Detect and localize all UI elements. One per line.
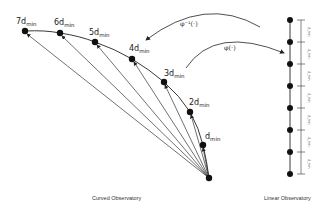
- linear-observatory-caption: Linear Observatory: [264, 195, 311, 201]
- label-3dmin: 3dmin: [164, 69, 185, 79]
- segment-label: d_min: [307, 137, 311, 147]
- segment-label: d_min: [307, 49, 311, 59]
- node-labels: 7dmin 6dmin 5dmin 4dmin 3dmin 2dmin dmin: [16, 17, 221, 142]
- node-2dmin: [187, 109, 193, 115]
- label-5dmin: 5dmin: [89, 28, 110, 38]
- forward-mapping-label: φ(·): [224, 44, 236, 52]
- segment-label: d_min: [307, 115, 311, 125]
- rays: [27, 34, 209, 178]
- linear-node: [287, 127, 293, 133]
- node-origin: [206, 175, 212, 181]
- diagram-canvas: 7dmin 6dmin 5dmin 4dmin 3dmin 2dmin dmin…: [0, 0, 332, 211]
- label-7dmin: 7dmin: [16, 17, 37, 27]
- label-4dmin: 4dmin: [129, 44, 150, 54]
- dimension-labels: d_min d_min d_min d_min d_min d_min d_mi…: [307, 27, 311, 169]
- segment-label: d_min: [307, 93, 311, 103]
- inverse-mapping-arrow: [146, 14, 260, 40]
- node-dmin: [200, 142, 206, 148]
- linear-node: [287, 17, 293, 23]
- label-2dmin: 2dmin: [189, 98, 210, 108]
- label-6dmin: 6dmin: [54, 18, 75, 28]
- linear-node: [287, 149, 293, 155]
- linear-node: [287, 39, 293, 45]
- segment-label: d_min: [307, 71, 311, 81]
- dimension-line: [297, 20, 305, 174]
- linear-node: [287, 83, 293, 89]
- inverse-mapping-label: φ⁻¹(·): [180, 20, 198, 28]
- node-3dmin: [161, 79, 167, 85]
- segment-label: d_min: [307, 159, 311, 169]
- linear-node: [287, 171, 293, 177]
- node-4dmin: [129, 56, 135, 62]
- node-6dmin: [57, 30, 63, 36]
- linear-node: [287, 61, 293, 67]
- linear-node: [287, 105, 293, 111]
- segment-label: d_min: [307, 27, 311, 37]
- label-dmin: dmin: [205, 132, 221, 142]
- node-5dmin: [92, 39, 98, 45]
- curved-observatory-caption: Curved Observatory: [92, 195, 141, 201]
- node-7dmin: [22, 28, 28, 34]
